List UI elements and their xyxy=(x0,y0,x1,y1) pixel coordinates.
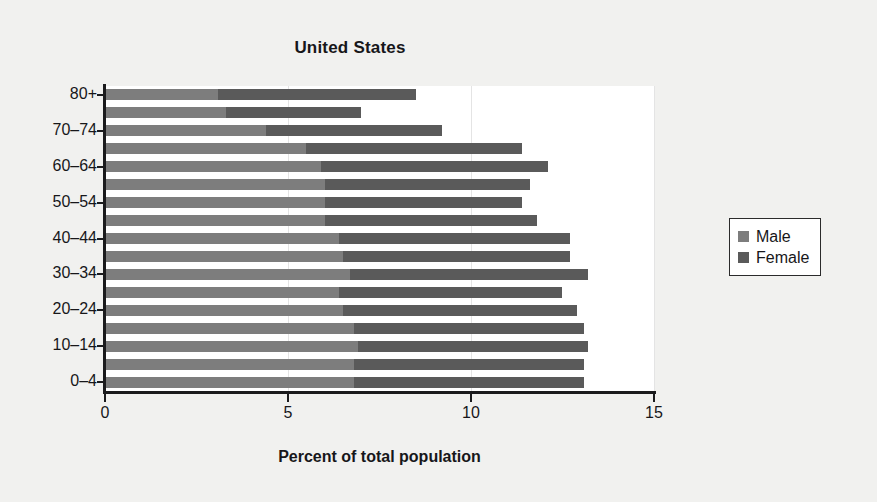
bar-segment-male xyxy=(105,161,321,172)
x-axis-tick-label: 10 xyxy=(451,404,491,422)
y-axis-tick-mark xyxy=(97,202,104,204)
bar-segment-male xyxy=(105,215,325,226)
bar-segment-female xyxy=(321,161,548,172)
bar-segment-male xyxy=(105,287,339,298)
chart-title: United States xyxy=(0,38,700,58)
bar-segment-male xyxy=(105,233,339,244)
bar-segment-female xyxy=(306,143,522,154)
y-axis-tick-label: 40–44 xyxy=(31,229,97,247)
chart-legend: Male Female xyxy=(729,218,821,276)
chart-figure: United States 0–410–1420–2430–3440–4450–… xyxy=(0,0,877,502)
bar-row xyxy=(105,197,654,208)
bar-row xyxy=(105,107,654,118)
x-axis-tick-label: 15 xyxy=(634,404,674,422)
y-axis-tick-label: 20–24 xyxy=(31,300,97,318)
y-axis-tick-label: 0–4 xyxy=(31,372,97,390)
x-axis-title: Percent of total population xyxy=(105,448,654,466)
bar-row xyxy=(105,179,654,190)
y-axis-tick-labels: 0–410–1420–2430–3440–4450–5460–6470–7480… xyxy=(27,86,97,391)
bar-segment-male xyxy=(105,377,354,388)
bar-row xyxy=(105,89,654,100)
y-axis-tick-mark xyxy=(97,238,104,240)
legend-swatch-male xyxy=(738,231,749,242)
y-axis-tick-mark xyxy=(97,166,104,168)
bar-segment-female xyxy=(266,125,442,136)
bar-segment-male xyxy=(105,107,226,118)
bar-segment-female xyxy=(354,323,585,334)
bar-row xyxy=(105,323,654,334)
bar-segment-female xyxy=(354,359,585,370)
x-axis-tick-mark xyxy=(470,394,472,402)
bar-row xyxy=(105,161,654,172)
x-axis-tick-mark xyxy=(104,394,106,402)
x-axis-tick-mark xyxy=(287,394,289,402)
bar-row xyxy=(105,305,654,316)
x-axis-tick-label: 5 xyxy=(268,404,308,422)
bar-segment-female xyxy=(343,251,570,262)
y-axis-tick-mark xyxy=(97,345,104,347)
y-axis-tick-label: 10–14 xyxy=(31,336,97,354)
bar-segment-female xyxy=(339,287,562,298)
bar-segment-male xyxy=(105,197,325,208)
bar-row xyxy=(105,233,654,244)
y-axis-tick-label: 60–64 xyxy=(31,157,97,175)
y-axis-tick-mark xyxy=(97,273,104,275)
y-axis-tick-mark xyxy=(97,309,104,311)
bar-segment-male xyxy=(105,305,343,316)
bar-segment-female xyxy=(325,179,530,190)
bar-segment-female xyxy=(325,215,537,226)
bar-segment-male xyxy=(105,323,354,334)
bar-segment-female xyxy=(350,269,588,280)
bar-segment-male xyxy=(105,269,350,280)
x-axis-tick-mark xyxy=(653,394,655,402)
bar-segment-female xyxy=(325,197,523,208)
bar-row xyxy=(105,341,654,352)
bar-segment-male xyxy=(105,143,306,154)
bar-row xyxy=(105,377,654,388)
bar-segment-male xyxy=(105,179,325,190)
bar-row xyxy=(105,143,654,154)
bar-row xyxy=(105,287,654,298)
bar-segment-female xyxy=(354,377,585,388)
legend-item-male: Male xyxy=(738,226,809,247)
y-axis-tick-mark xyxy=(97,381,104,383)
bar-row xyxy=(105,251,654,262)
bar-segment-male xyxy=(105,251,343,262)
legend-item-female: Female xyxy=(738,247,809,268)
bar-row xyxy=(105,215,654,226)
y-axis-tick-mark xyxy=(97,130,104,132)
gridline xyxy=(654,86,655,391)
y-axis-tick-label: 30–34 xyxy=(31,264,97,282)
bar-segment-female xyxy=(226,107,361,118)
y-axis-tick-mark xyxy=(97,94,104,96)
x-axis-line xyxy=(103,391,656,394)
bar-segment-female xyxy=(343,305,577,316)
legend-swatch-female xyxy=(738,252,749,263)
bar-segment-female xyxy=(218,89,416,100)
bar-row xyxy=(105,269,654,280)
bar-segment-male xyxy=(105,125,266,136)
y-axis-tick-label: 80+ xyxy=(31,85,97,103)
bar-segment-female xyxy=(358,341,589,352)
legend-label-female: Female xyxy=(756,249,809,267)
y-axis-tick-label: 70–74 xyxy=(31,121,97,139)
bar-segment-male xyxy=(105,89,218,100)
bar-segment-male xyxy=(105,341,358,352)
y-axis-tick-label: 50–54 xyxy=(31,193,97,211)
x-axis-tick-label: 0 xyxy=(85,404,125,422)
bar-row xyxy=(105,359,654,370)
plot-area xyxy=(105,86,654,391)
legend-label-male: Male xyxy=(756,228,791,246)
bar-segment-male xyxy=(105,359,354,370)
bar-segment-female xyxy=(339,233,570,244)
bar-row xyxy=(105,125,654,136)
